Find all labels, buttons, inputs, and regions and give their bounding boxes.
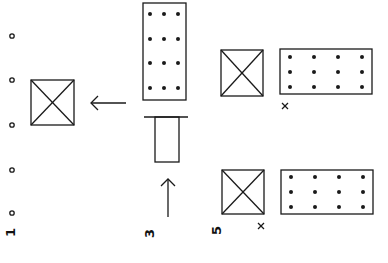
circle-column	[10, 34, 14, 215]
panel-label-1: 1	[4, 228, 17, 237]
circle-marker	[10, 34, 14, 38]
circle-marker	[10, 168, 14, 172]
dot-grid-bottom-right	[289, 175, 365, 209]
cross-marker-top	[282, 103, 288, 109]
diagram-canvas	[0, 0, 388, 263]
cross-marker-bottom	[258, 223, 264, 229]
dot-grid-top-right	[288, 55, 364, 89]
dotted-rect-top-right	[280, 49, 372, 94]
circle-marker	[10, 211, 14, 215]
small-rect	[155, 117, 179, 162]
dotted-rect-bottom-right	[281, 170, 373, 214]
panel-label-5: 5	[210, 226, 223, 235]
crossed-box-bottom-right	[222, 170, 264, 214]
circle-marker	[10, 78, 14, 82]
crossed-box-left	[31, 80, 74, 125]
dot-grid-tall	[148, 12, 180, 90]
dotted-rect-tall	[143, 3, 186, 100]
arrow-left-icon	[91, 96, 126, 110]
arrow-up-icon	[161, 179, 175, 217]
panel-label-3: 3	[143, 229, 156, 238]
circle-marker	[10, 123, 14, 127]
crossed-box-top-right	[221, 50, 263, 96]
